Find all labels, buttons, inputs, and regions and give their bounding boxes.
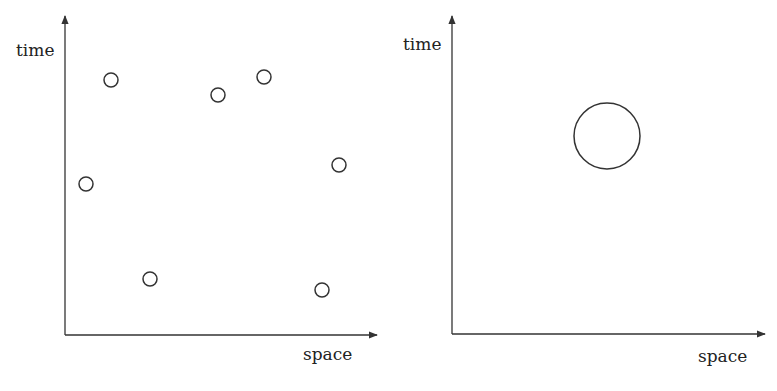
event-circles <box>79 70 346 297</box>
event-circle <box>332 158 346 172</box>
panel-right: time space <box>403 16 765 366</box>
event-circle <box>574 103 640 169</box>
x-axis-label: space <box>698 346 747 366</box>
spacetime-diagrams: time space time space <box>0 0 777 391</box>
y-axis-label: time <box>16 40 54 60</box>
event-circle <box>257 70 271 84</box>
axes <box>65 16 377 335</box>
event-circle <box>143 272 157 286</box>
event-circles <box>574 103 640 169</box>
y-axis-label: time <box>403 34 441 54</box>
event-circle <box>315 283 329 297</box>
event-circle <box>211 88 225 102</box>
event-circle <box>104 73 118 87</box>
x-axis-label: space <box>303 344 352 364</box>
panel-left: time space <box>16 16 377 364</box>
axes <box>452 16 765 334</box>
event-circle <box>79 177 93 191</box>
